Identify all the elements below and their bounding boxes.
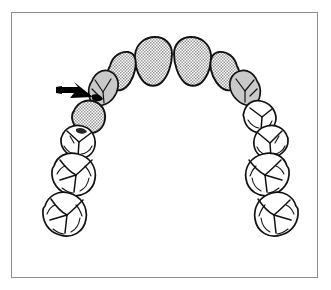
tooth-ur-central-incisor	[135, 37, 172, 86]
tooth-ur-first-molar	[246, 153, 289, 196]
tooth-ul-first-molar	[52, 153, 95, 196]
contact-point-arrow	[56, 82, 93, 98]
tooth-ur-second-molar	[255, 192, 298, 236]
tooth-ul-central-incisor	[174, 37, 211, 86]
teeth-group	[43, 37, 298, 236]
figure-root: Maxillary dental arch, occlusal view	[0, 0, 331, 290]
dental-arch-illustration	[0, 0, 331, 290]
tooth-ul-second-molar	[43, 192, 86, 236]
